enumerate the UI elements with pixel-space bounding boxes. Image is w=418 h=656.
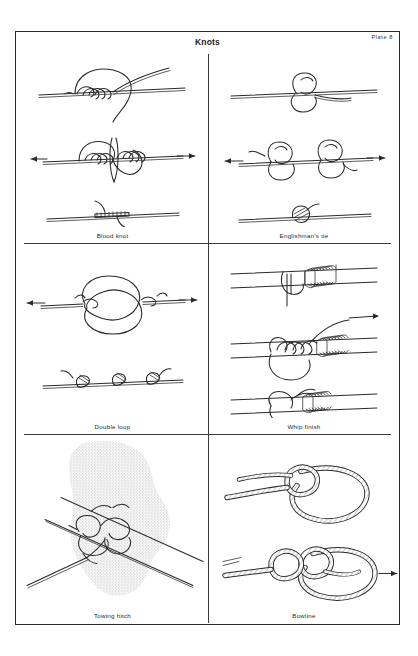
knot-grid: Blood knot	[16, 32, 399, 624]
bowline-stage-1	[227, 467, 367, 521]
caption-double-loop: Double loop	[17, 423, 208, 430]
knot-cell-double-loop: Double loop	[17, 244, 208, 434]
knot-cell-bowline: Bowline	[209, 435, 399, 623]
knot-cell-towing-hitch: Towing hitch	[17, 435, 208, 623]
bowline-stage-2	[223, 549, 397, 598]
caption-blood-knot: Blood knot	[17, 232, 208, 239]
double-loop-stage-2	[43, 369, 183, 389]
whip-finish-stage-2	[231, 313, 379, 380]
arrow-right	[349, 313, 379, 319]
blood-knot-illustration	[17, 54, 208, 227]
blood-knot-stage-2	[31, 138, 195, 182]
englishmans-tie-stage-1	[231, 73, 377, 112]
knot-cell-whip-finish: Whip finish	[209, 244, 399, 434]
arrow-left	[225, 158, 243, 164]
caption-bowline: Bowline	[209, 612, 399, 619]
knot-cell-blood-knot: Blood knot	[17, 54, 208, 243]
caption-whip-finish: Whip finish	[209, 423, 399, 430]
englishmans-tie-stage-2	[225, 140, 385, 180]
whip-finish-stage-3	[231, 389, 377, 418]
whip-finish-illustration	[209, 244, 399, 418]
whip-finish-stage-1	[231, 265, 377, 306]
double-loop-illustration	[17, 244, 208, 418]
englishmans-tie-stage-3	[239, 204, 371, 223]
arrow-right	[379, 571, 397, 577]
arrow-left	[27, 300, 45, 306]
caption-englishmans-tie: Englishman's tie	[209, 232, 399, 239]
bowline-illustration	[209, 435, 399, 607]
knot-cell-englishmans-tie: Englishman's tie	[209, 54, 399, 243]
englishmans-tie-illustration	[209, 54, 399, 227]
blood-knot-stage-1	[39, 68, 185, 122]
knots-plate: Knots Plate 8	[15, 31, 400, 625]
towing-hitch-illustration	[17, 435, 208, 607]
blood-knot-stage-3	[47, 201, 179, 227]
arrow-left	[31, 156, 47, 162]
arrow-right	[179, 297, 197, 303]
arrow-right	[367, 155, 385, 161]
caption-towing-hitch: Towing hitch	[17, 612, 208, 619]
arrow-right	[177, 153, 195, 159]
double-loop-stage-1	[27, 276, 197, 334]
